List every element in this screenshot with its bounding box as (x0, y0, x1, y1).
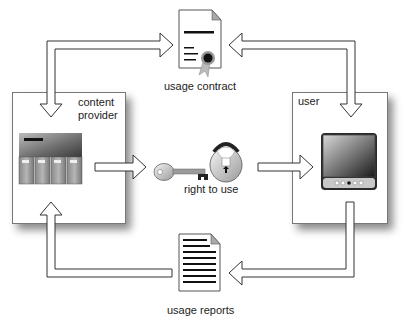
key-icon (154, 164, 208, 181)
user-label: user (298, 95, 319, 108)
user-device-icon (321, 133, 377, 190)
usage-contract-label: usage contract (164, 80, 236, 93)
content-provider-label: content provider (78, 96, 118, 121)
arrow-right-to-use-user (258, 155, 313, 179)
arrow-provider-right-to-use (95, 155, 146, 179)
arrow-reports-provider (40, 202, 172, 277)
right-to-use-label: right to use (184, 183, 238, 196)
arrow-user-contract (229, 33, 362, 117)
usage-contract-icon (179, 10, 221, 77)
content-provider-label-line2: provider (78, 109, 118, 122)
content-provider-server-icon (19, 133, 82, 184)
arrow-user-reports (229, 202, 354, 285)
usage-reports-icon (179, 234, 220, 291)
padlock-icon (210, 144, 242, 182)
diagram-canvas (0, 0, 406, 321)
content-provider-label-line1: content (78, 96, 118, 109)
usage-reports-label: usage reports (167, 304, 234, 317)
